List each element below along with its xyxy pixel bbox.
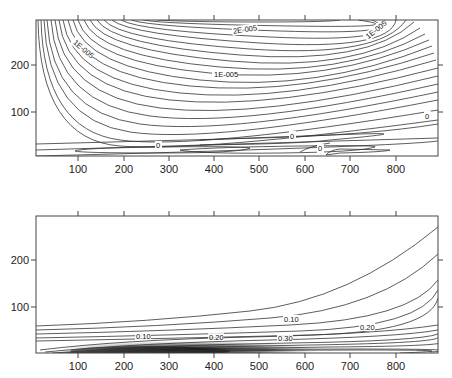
x-tick-label: 500 — [250, 163, 268, 175]
x-tick-label: 800 — [387, 360, 405, 372]
x-tick-label: 100 — [69, 360, 87, 372]
y-tick-label: 200 — [11, 254, 29, 266]
bottom-contour-lines — [36, 227, 444, 359]
y-tick-label: 100 — [11, 106, 29, 118]
top-contour-plot: 1E-005 2E-005 1E-005 1E-005 0 0 0 0 — [11, 15, 443, 175]
contour-label: 0.30 — [278, 334, 293, 343]
x-tick-label: 200 — [115, 163, 133, 175]
x-tick-label: 300 — [160, 163, 178, 175]
x-tick-label: 500 — [250, 360, 268, 372]
top-plot-top-ticks — [78, 15, 396, 20]
y-tick-label: 100 — [11, 301, 29, 313]
x-tick-label: 600 — [296, 360, 314, 372]
x-tick-label: 800 — [387, 163, 405, 175]
contour-label: 0 — [156, 141, 160, 150]
contour-label: 0.20 — [209, 333, 224, 342]
bottom-contour-plot: 0.10 0.20 0.10 0.20 0.30 — [11, 211, 444, 372]
figure: 1E-005 2E-005 1E-005 1E-005 0 0 0 0 — [0, 0, 452, 378]
y-tick-label: 200 — [11, 59, 29, 71]
x-tick-label: 100 — [69, 163, 87, 175]
contour-label: 2E-005 — [232, 23, 257, 35]
x-tick-label: 600 — [296, 163, 314, 175]
bottom-plot-x-labels: 100 200 300 400 500 600 700 800 — [69, 360, 405, 372]
contour-label: 0 — [290, 132, 294, 141]
x-tick-label: 400 — [205, 360, 223, 372]
x-tick-label: 400 — [205, 163, 223, 175]
top-contour-lines — [36, 20, 441, 156]
x-tick-label: 700 — [341, 163, 359, 175]
contour-label: 0 — [318, 144, 322, 153]
bottom-plot-top-ticks — [78, 211, 396, 216]
contour-label: 0.20 — [360, 323, 375, 332]
top-plot-x-ticks — [78, 156, 396, 161]
contour-label: 0.10 — [284, 315, 299, 324]
x-tick-label: 700 — [341, 360, 359, 372]
contour-label: 0 — [425, 112, 429, 121]
top-contour-labels: 1E-005 2E-005 1E-005 1E-005 0 0 0 0 — [70, 19, 431, 153]
bottom-plot-x-ticks — [78, 353, 396, 358]
contour-label: 1E-005 — [214, 70, 238, 79]
top-plot-x-labels: 100 200 300 400 500 600 700 800 — [69, 163, 405, 175]
x-tick-label: 300 — [160, 360, 178, 372]
x-tick-label: 200 — [115, 360, 133, 372]
contour-label: 0.10 — [136, 332, 151, 341]
